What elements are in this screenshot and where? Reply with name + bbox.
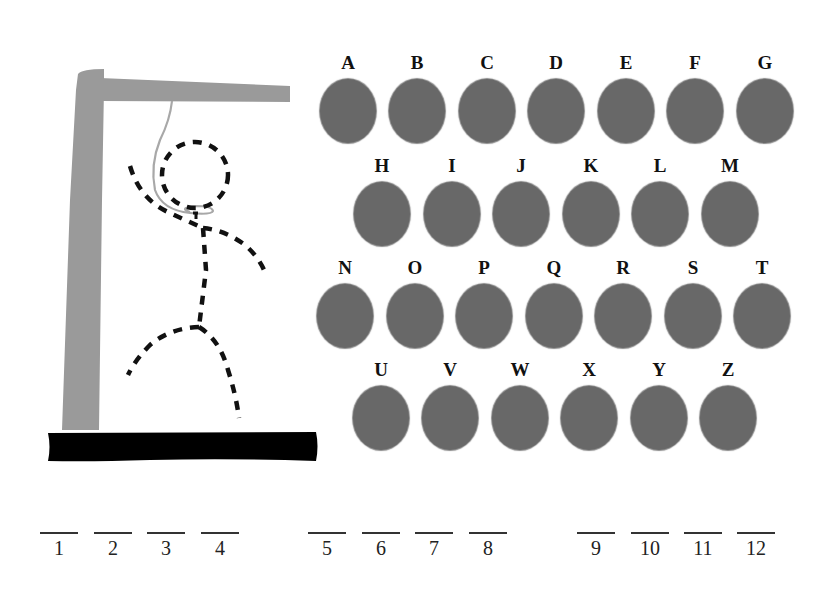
letter-disc[interactable] [493, 182, 549, 246]
letter-button-o[interactable]: O [386, 258, 444, 340]
letter-button-b[interactable]: B [388, 53, 446, 135]
letter-disc[interactable] [353, 386, 409, 450]
letter-button-p[interactable]: P [455, 258, 513, 340]
head [162, 142, 228, 208]
letter-button-n[interactable]: N [316, 258, 374, 340]
letter-button-f[interactable]: F [666, 53, 724, 135]
word-slot-9: 9 [576, 532, 616, 558]
slot-blank [737, 532, 775, 534]
letter-label: F [666, 53, 724, 73]
letter-button-q[interactable]: Q [525, 258, 583, 340]
gallows-post [62, 69, 104, 430]
letter-disc[interactable] [528, 79, 584, 143]
slot-number: 4 [200, 538, 240, 558]
letter-label: Q [525, 258, 583, 278]
letter-button-l[interactable]: L [631, 156, 689, 238]
letter-disc[interactable] [492, 386, 548, 450]
letter-label: H [353, 156, 411, 176]
right-arm [203, 228, 266, 275]
gallows-base [48, 432, 318, 461]
letter-label: R [594, 258, 652, 278]
letter-label: E [597, 53, 655, 73]
slot-number: 8 [468, 538, 508, 558]
letter-button-g[interactable]: G [736, 53, 794, 135]
letter-button-k[interactable]: K [562, 156, 620, 238]
letter-label: W [491, 360, 549, 380]
letter-button-w[interactable]: W [491, 360, 549, 442]
letter-disc[interactable] [700, 386, 756, 450]
letter-disc[interactable] [737, 79, 793, 143]
letter-label: K [562, 156, 620, 176]
letter-disc[interactable] [422, 386, 478, 450]
letter-button-u[interactable]: U [352, 360, 410, 442]
neck [193, 213, 198, 219]
rope [153, 101, 213, 214]
letter-button-x[interactable]: X [560, 360, 618, 442]
letter-disc[interactable] [387, 284, 443, 348]
letter-button-r[interactable]: R [594, 258, 652, 340]
letter-disc[interactable] [734, 284, 790, 348]
letter-button-v[interactable]: V [421, 360, 479, 442]
letter-label: J [492, 156, 550, 176]
letter-button-h[interactable]: H [353, 156, 411, 238]
letter-button-z[interactable]: Z [699, 360, 757, 442]
letter-disc[interactable] [631, 386, 687, 450]
letter-disc[interactable] [456, 284, 512, 348]
letter-label: M [701, 156, 759, 176]
word-slot-10: 10 [630, 532, 670, 558]
torso [199, 228, 206, 327]
letter-disc[interactable] [598, 79, 654, 143]
letter-label: P [455, 258, 513, 278]
slot-blank [631, 532, 669, 534]
letter-button-i[interactable]: I [423, 156, 481, 238]
slot-blank [308, 532, 346, 534]
letter-disc[interactable] [563, 182, 619, 246]
word-slot-12: 12 [736, 532, 776, 558]
slot-number: 9 [576, 538, 616, 558]
slot-number: 7 [414, 538, 454, 558]
slot-blank [577, 532, 615, 534]
letter-disc[interactable] [354, 182, 410, 246]
letter-disc[interactable] [459, 79, 515, 143]
letter-disc[interactable] [526, 284, 582, 348]
letter-disc[interactable] [317, 284, 373, 348]
slot-blank [684, 532, 722, 534]
slot-number: 12 [736, 538, 776, 558]
letter-disc[interactable] [595, 284, 651, 348]
letter-disc[interactable] [632, 182, 688, 246]
word-slot-4: 4 [200, 532, 240, 558]
letter-label: N [316, 258, 374, 278]
letter-button-d[interactable]: D [527, 53, 585, 135]
letter-button-a[interactable]: A [319, 53, 377, 135]
letter-button-m[interactable]: M [701, 156, 759, 238]
hangman-drawing [0, 0, 330, 480]
word-slot-5: 5 [307, 532, 347, 558]
letter-label: U [352, 360, 410, 380]
slot-number: 3 [146, 538, 186, 558]
slot-blank [147, 532, 185, 534]
letter-label: D [527, 53, 585, 73]
slot-blank [469, 532, 507, 534]
letter-button-e[interactable]: E [597, 53, 655, 135]
letter-button-s[interactable]: S [664, 258, 722, 340]
word-slot-7: 7 [414, 532, 454, 558]
slot-blank [362, 532, 400, 534]
letter-label: V [421, 360, 479, 380]
letter-disc[interactable] [702, 182, 758, 246]
letter-label: I [423, 156, 481, 176]
letter-disc[interactable] [667, 79, 723, 143]
letter-disc[interactable] [424, 182, 480, 246]
slot-number: 10 [630, 538, 670, 558]
word-slot-3: 3 [146, 532, 186, 558]
letter-disc[interactable] [320, 79, 376, 143]
letter-disc[interactable] [389, 79, 445, 143]
letter-button-y[interactable]: Y [630, 360, 688, 442]
letter-disc[interactable] [561, 386, 617, 450]
letter-disc[interactable] [665, 284, 721, 348]
letter-button-t[interactable]: T [733, 258, 791, 340]
letter-label: X [560, 360, 618, 380]
letter-label: G [736, 53, 794, 73]
letter-button-c[interactable]: C [458, 53, 516, 135]
word-slot-8: 8 [468, 532, 508, 558]
letter-button-j[interactable]: J [492, 156, 550, 238]
